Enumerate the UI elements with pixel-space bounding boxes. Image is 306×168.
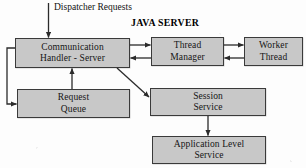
node-worker-thread-line2: Thread	[260, 52, 288, 64]
node-communication-handler-server[interactable]: Communication Handler - Server	[15, 38, 130, 68]
node-worker-thread[interactable]: Worker Thread	[244, 37, 303, 66]
node-request-queue-line1: Request	[58, 92, 89, 104]
node-application-level-service-line1: Application Level	[174, 139, 245, 151]
node-request-queue[interactable]: Request Queue	[17, 89, 130, 118]
node-application-level-service-line2: Service	[194, 150, 223, 162]
diagram-canvas: Dispatcher Requests JAVA SERVER Communic…	[0, 0, 306, 168]
node-application-level-service[interactable]: Application Level Service	[152, 136, 266, 164]
node-request-queue-line2: Queue	[61, 104, 86, 116]
dispatcher-requests-line1: Dispatcher	[54, 2, 95, 12]
node-thread-manager-line2: Manager	[170, 52, 204, 64]
node-communication-handler-server-line2: Handler - Server	[40, 53, 105, 65]
dispatcher-requests-label: Dispatcher Requests	[54, 2, 108, 14]
node-worker-thread-line1: Worker	[259, 40, 288, 52]
node-session-service[interactable]: Session Service	[150, 88, 266, 116]
diagram-title: JAVA SERVER	[131, 17, 199, 28]
dispatcher-requests-line2: Requests	[98, 2, 132, 12]
node-session-service-line2: Service	[193, 102, 222, 114]
node-session-service-line1: Session	[193, 91, 223, 103]
node-thread-manager-line1: Thread	[174, 40, 202, 52]
node-thread-manager[interactable]: Thread Manager	[151, 37, 224, 66]
node-communication-handler-server-line1: Communication	[41, 42, 104, 54]
